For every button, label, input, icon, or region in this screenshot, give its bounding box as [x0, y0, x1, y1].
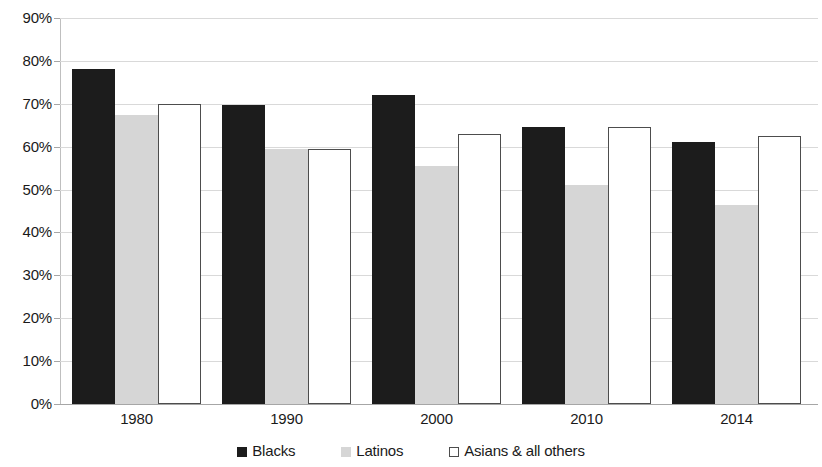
x-axis-tick-label: 2000: [372, 410, 501, 427]
axis-baseline: [60, 404, 818, 405]
bar-1980-latinos: [115, 115, 158, 405]
y-axis-tick: [54, 232, 60, 233]
bar-2014-blacks: [672, 142, 715, 404]
bar-1990-blacks: [222, 105, 265, 404]
bar-2014-asians: [758, 136, 801, 404]
y-axis-tick: [54, 18, 60, 19]
y-axis-tick: [54, 275, 60, 276]
legend-item: Latinos: [341, 442, 403, 460]
y-axis-tick: [54, 318, 60, 319]
x-axis-tick-label: 2010: [522, 410, 651, 427]
legend-swatch-blacks: [237, 447, 247, 457]
y-axis-tick: [54, 104, 60, 105]
bar-2000-asians: [458, 134, 501, 404]
bar-group: [222, 18, 351, 404]
bar-2014-latinos: [715, 205, 758, 404]
bar-1980-asians: [158, 104, 201, 404]
bar-chart: 90%80%70%60%50%40%30%20%10%0% 1980199020…: [0, 0, 822, 467]
legend-item: Blacks: [237, 442, 295, 460]
chart-legend: BlacksLatinosAsians & all others: [0, 442, 822, 460]
bar-group: [72, 18, 201, 404]
y-axis-tick-label: 30%: [4, 267, 52, 282]
y-axis-tick-label: 0%: [4, 396, 52, 411]
x-axis-tick-label: 1980: [72, 410, 201, 427]
bar-group: [522, 18, 651, 404]
plot-area: [60, 18, 818, 404]
bar-1990-latinos: [265, 149, 308, 404]
x-axis-tick-label: 2014: [672, 410, 801, 427]
y-axis-tick: [54, 147, 60, 148]
y-axis-tick-label: 10%: [4, 353, 52, 368]
y-axis-tick: [54, 61, 60, 62]
y-axis-labels: 90%80%70%60%50%40%30%20%10%0%: [0, 0, 52, 467]
bar-2000-latinos: [415, 166, 458, 404]
y-axis-tick-label: 50%: [4, 182, 52, 197]
bar-2010-asians: [608, 127, 651, 404]
y-axis-tick-label: 70%: [4, 96, 52, 111]
bar-2010-blacks: [522, 127, 565, 404]
bar-2010-latinos: [565, 185, 608, 404]
y-axis-tick-label: 20%: [4, 310, 52, 325]
y-axis-tick: [54, 190, 60, 191]
x-axis-tick-label: 1990: [222, 410, 351, 427]
legend-label: Asians & all others: [464, 442, 584, 460]
y-axis-tick-label: 60%: [4, 139, 52, 154]
legend-swatch-asians: [449, 447, 459, 457]
legend-label: Blacks: [252, 442, 295, 460]
bar-group: [672, 18, 801, 404]
legend-item: Asians & all others: [449, 442, 584, 460]
y-axis-tick-label: 40%: [4, 224, 52, 239]
y-axis-tick-label: 90%: [4, 10, 52, 25]
bar-1990-asians: [308, 149, 351, 404]
bar-2000-blacks: [372, 95, 415, 404]
legend-label: Latinos: [356, 442, 403, 460]
y-axis-tick: [54, 361, 60, 362]
legend-swatch-latinos: [341, 447, 351, 457]
y-axis-tick-label: 80%: [4, 53, 52, 68]
bar-1980-blacks: [72, 69, 115, 404]
y-axis-tick: [54, 404, 60, 405]
bar-group: [372, 18, 501, 404]
